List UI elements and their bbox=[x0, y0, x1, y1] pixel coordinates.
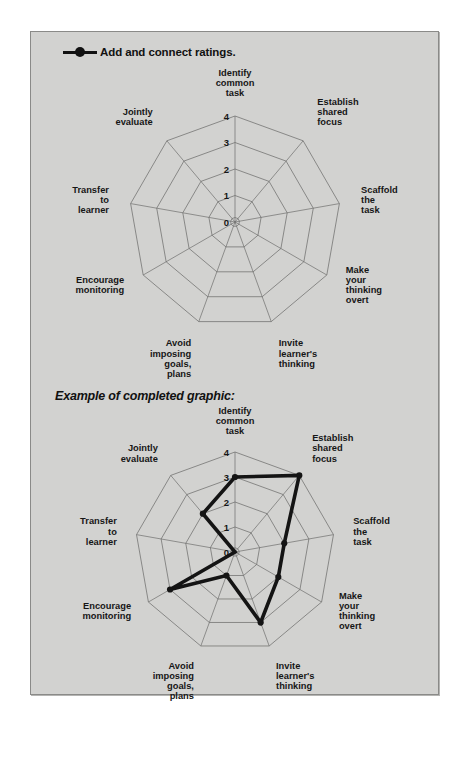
axis-label-4: Invitelearner'sthinking bbox=[276, 661, 314, 691]
axis-label-line: learner bbox=[86, 537, 117, 547]
axis-label-line: goals, bbox=[167, 681, 194, 691]
axis-label-line: common bbox=[216, 416, 255, 426]
axis-label-line: monitoring bbox=[83, 611, 132, 621]
completed-radar-panel: Example of completed graphic: 01234Ident… bbox=[31, 32, 438, 694]
axis-label-line: evaluate bbox=[121, 454, 158, 464]
axis-label-line: Make bbox=[339, 591, 362, 601]
axis-label-line: your bbox=[339, 601, 360, 611]
data-point-6 bbox=[167, 586, 173, 592]
axis-label-line: Transfer bbox=[80, 516, 117, 526]
data-point-1 bbox=[296, 472, 302, 478]
tick-label-2: 2 bbox=[224, 497, 229, 508]
axis-label-2: Scaffoldthetask bbox=[353, 516, 390, 546]
axis-label-line: shared bbox=[312, 443, 343, 453]
data-point-4 bbox=[258, 619, 264, 625]
data-point-2 bbox=[281, 540, 287, 546]
radar-grid bbox=[137, 452, 334, 646]
axis-label-line: overt bbox=[339, 621, 362, 631]
data-point-3 bbox=[275, 574, 281, 580]
axis-label-line: thinking bbox=[276, 681, 312, 691]
axis-label-line: Avoid bbox=[168, 661, 194, 671]
completed-radar-svg: 01234IdentifycommontaskEstablishsharedfo… bbox=[31, 404, 440, 704]
data-point-5 bbox=[223, 572, 229, 578]
axis-label-line: focus bbox=[312, 454, 337, 464]
axis-label-line: imposing bbox=[153, 671, 195, 681]
data-point-8 bbox=[200, 511, 206, 517]
data-point-0 bbox=[232, 474, 238, 480]
completed-radar-chart: 01234IdentifycommontaskEstablishsharedfo… bbox=[31, 404, 440, 704]
page-canvas: Add and connect ratings. 01234Identifyco… bbox=[0, 0, 469, 766]
radar-spoke-7 bbox=[137, 535, 235, 552]
axis-label-line: the bbox=[353, 527, 367, 537]
axis-label-3: Makeyourthinkingovert bbox=[339, 591, 375, 632]
axis-label-7: Transfertolearner bbox=[80, 516, 117, 546]
worksheet-frame: Add and connect ratings. 01234Identifyco… bbox=[30, 31, 439, 695]
section-caption: Example of completed graphic: bbox=[55, 389, 235, 403]
axis-label-line: Encourage bbox=[83, 601, 131, 611]
axis-label-1: Establishsharedfocus bbox=[312, 433, 354, 463]
tick-label-1: 1 bbox=[224, 522, 230, 533]
axis-label-6: Encouragemonitoring bbox=[83, 601, 132, 621]
axis-label-line: task bbox=[353, 537, 372, 547]
axis-label-line: learner's bbox=[276, 671, 314, 681]
axis-label-line: Identify bbox=[218, 406, 252, 416]
axis-label-line: Invite bbox=[276, 661, 300, 671]
axis-label-line: Establish bbox=[312, 433, 354, 443]
axis-label-line: Scaffold bbox=[353, 516, 390, 526]
axis-label-8: Jointlyevaluate bbox=[121, 443, 159, 463]
axis-label-line: task bbox=[226, 426, 245, 436]
axis-label-0: Identifycommontask bbox=[216, 406, 255, 436]
axis-label-line: to bbox=[108, 527, 117, 537]
axis-label-line: Jointly bbox=[128, 443, 159, 453]
tick-label-3: 3 bbox=[224, 472, 229, 483]
axis-label-line: plans bbox=[170, 691, 194, 701]
axis-label-5: Avoidimposinggoals,plans bbox=[153, 661, 195, 702]
tick-label-4: 4 bbox=[224, 447, 230, 458]
axis-label-line: thinking bbox=[339, 611, 375, 621]
